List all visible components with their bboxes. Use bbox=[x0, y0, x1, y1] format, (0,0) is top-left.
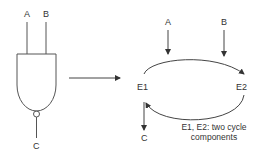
cycle-input-a-label: A bbox=[165, 18, 171, 27]
cycle-note-line2: components bbox=[164, 132, 261, 142]
cycle-arc-e1-to-e2 bbox=[144, 60, 244, 74]
cycle-arc-e2-to-e1 bbox=[146, 95, 244, 120]
cycle-note-line1: E1, E2: two cycle bbox=[164, 122, 261, 132]
gate-input-a-label: A bbox=[24, 10, 30, 19]
gate-output-c-label: C bbox=[33, 142, 40, 151]
gate-input-b-label: B bbox=[43, 10, 49, 19]
cycle-input-b-label: B bbox=[221, 18, 227, 27]
inversion-bubble bbox=[34, 111, 40, 117]
node-e1-label: E1 bbox=[137, 83, 148, 92]
gate-body bbox=[17, 54, 56, 111]
nand-gate-icon bbox=[17, 22, 56, 138]
cycle-output-c-label: C bbox=[141, 134, 148, 143]
cycle-note: E1, E2: two cycle components bbox=[164, 122, 261, 142]
node-e2-label: E2 bbox=[236, 83, 247, 92]
